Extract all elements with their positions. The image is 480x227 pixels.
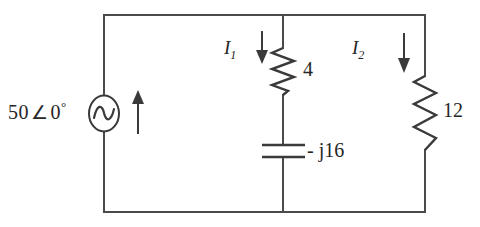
source-phase: 0 — [51, 101, 62, 123]
current-label-i2: I2 — [352, 38, 364, 61]
circuit-schematic-svg — [0, 0, 480, 227]
source-current-arrow-head — [132, 90, 144, 104]
i1-current-arrow-head — [256, 50, 268, 64]
resistor-4-label: 4 — [303, 59, 313, 79]
resistor-4-symbol — [272, 48, 294, 95]
angle-symbol: ∠ — [29, 102, 51, 123]
i2-subscript: 2 — [358, 48, 364, 62]
resistor-12-label: 12 — [443, 100, 463, 120]
source-label: 50∠0° — [8, 100, 67, 122]
i1-subscript: 1 — [230, 48, 236, 62]
source-magnitude: 50 — [8, 101, 29, 123]
resistor-12-symbol — [414, 76, 436, 150]
circuit-diagram: 50∠0° I1 I2 4 12 - j16 — [0, 0, 480, 227]
degree-symbol: ° — [61, 99, 67, 114]
capacitor-label: - j16 — [307, 140, 344, 160]
i2-current-arrow-head — [398, 58, 410, 73]
current-label-i1: I1 — [224, 38, 236, 61]
